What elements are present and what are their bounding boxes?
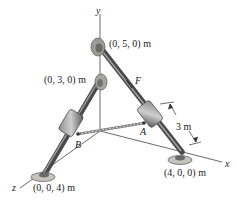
coord-0-3-0: (0, 3, 0) m [44, 75, 86, 85]
mount-top [91, 38, 105, 56]
collar-A-label: A [140, 127, 146, 137]
mount-mid [95, 74, 107, 90]
dimension-label: 3 m [176, 122, 191, 132]
coord-4-0-0: (4, 0, 0) m [164, 168, 206, 178]
x-axis [100, 131, 222, 162]
point-B [76, 132, 80, 136]
point-A [142, 121, 146, 125]
collar-B-label: B [75, 140, 81, 150]
force-label: F [135, 76, 141, 86]
mount-x [168, 156, 192, 165]
cable-AB [78, 123, 144, 134]
z-axis-label: z [12, 183, 16, 193]
coord-0-5-0: (0, 5, 0) m [109, 39, 151, 49]
z-axis [20, 131, 100, 188]
mount-z [31, 173, 55, 182]
x-axis-label: x [225, 159, 229, 169]
y-axis-label: y [96, 6, 100, 16]
coord-0-0-4: (0, 0, 4) m [33, 183, 75, 193]
